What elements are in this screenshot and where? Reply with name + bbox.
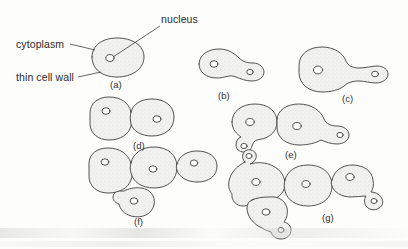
cytoplasm-leader-line xyxy=(70,44,95,50)
panel-e-cells xyxy=(232,104,349,152)
panel-d-cells xyxy=(90,97,174,140)
cell-shapes xyxy=(89,38,388,239)
yeast-budding-figure: nucleus cytoplasm thin cell wall (a) (b)… xyxy=(0,0,408,249)
panel-c-cell xyxy=(299,47,388,92)
panel-letter-g: (g) xyxy=(322,212,334,223)
panel-b-cell xyxy=(199,49,264,81)
callout-label-nucleus: nucleus xyxy=(161,13,198,25)
panel-f-cells xyxy=(89,147,217,217)
panel-letter-a: (a) xyxy=(110,79,122,90)
panel-g-cells xyxy=(229,150,383,239)
panel-letter-b: (b) xyxy=(218,90,230,101)
panel-letter-f: (f) xyxy=(134,216,143,227)
callout-label-thin-cell-wall: thin cell wall xyxy=(16,71,74,83)
callout-label-cytoplasm: cytoplasm xyxy=(16,38,64,50)
panel-a-cell xyxy=(92,38,144,77)
panel-letter-c: (c) xyxy=(342,93,353,104)
panel-letter-d: (d) xyxy=(133,140,145,151)
thin-cell-wall-leader-line xyxy=(78,72,101,77)
panel-letter-e: (e) xyxy=(285,149,297,160)
